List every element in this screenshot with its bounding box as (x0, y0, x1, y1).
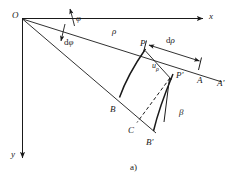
u-rho-subscript: ρ (156, 66, 159, 72)
label-origin-O: O (12, 11, 19, 20)
ray-phi-plus-dphi-OB-prime (23, 19, 157, 133)
angle-phi-arc (70, 9, 75, 26)
label-beta: β (179, 108, 183, 117)
label-point-A: A (197, 76, 203, 85)
figure-caption: a) (130, 163, 137, 172)
label-point-C: C (128, 126, 134, 135)
label-u-rho: uρ (152, 62, 159, 72)
label-rho: ρ (112, 27, 116, 36)
ray-phi-OA-prime (23, 19, 223, 82)
d-rho-symbol: ρ (171, 35, 175, 45)
d-rho-dimension-arrow (149, 45, 200, 61)
outer-arc-P-prime-B-prime (154, 74, 174, 131)
label-y-axis: y (11, 150, 15, 159)
tick-at-A (199, 58, 202, 71)
label-point-B: B (110, 105, 116, 114)
label-x-axis: x (209, 12, 213, 21)
label-point-A-prime: A' (217, 79, 224, 88)
label-point-P: P (140, 39, 146, 48)
label-point-P-prime: P' (176, 71, 183, 80)
label-angle-phi: φ (76, 14, 81, 23)
label-angle-d-phi: dφ (64, 38, 73, 47)
polar-element-figure: O x y φ dφ ρ dρ P uρ P' A A' β B C B' a) (0, 0, 240, 185)
d-phi-symbol: φ (69, 37, 74, 47)
label-point-B-prime: B' (146, 138, 153, 147)
figure-drawing (0, 0, 240, 185)
label-d-rho: dρ (166, 36, 175, 45)
